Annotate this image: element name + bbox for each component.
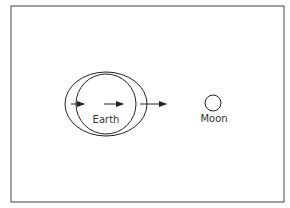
moon-label: Moon xyxy=(200,113,227,124)
earth-label: Earth xyxy=(93,114,120,125)
moon-circle xyxy=(205,95,221,111)
earth-moon-diagram: Earth Moon xyxy=(0,0,290,208)
